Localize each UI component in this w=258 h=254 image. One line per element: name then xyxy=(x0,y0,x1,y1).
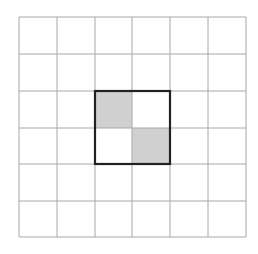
shaded-cell xyxy=(95,91,132,128)
grid-diagram xyxy=(0,0,258,254)
shaded-cell xyxy=(132,128,170,164)
grid-lines xyxy=(19,17,246,237)
